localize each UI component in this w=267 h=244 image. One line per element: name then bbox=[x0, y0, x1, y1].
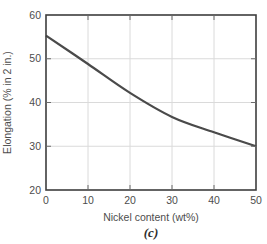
y-axis-label: Elongation (% in 2 in.) bbox=[1, 15, 14, 191]
x-tick-label-40: 40 bbox=[208, 194, 220, 206]
x-tick-label-10: 10 bbox=[82, 194, 94, 206]
plot-area: 010203040502030405060 bbox=[0, 0, 267, 244]
x-axis-label: Nickel content (wt%) bbox=[46, 211, 256, 224]
y-tick-label-40: 40 bbox=[29, 96, 41, 108]
y-tick-label-60: 60 bbox=[29, 9, 41, 21]
y-tick-label-20: 20 bbox=[29, 184, 41, 196]
x-tick-label-20: 20 bbox=[124, 194, 136, 206]
x-tick-label-30: 30 bbox=[166, 194, 178, 206]
line-chart-figure: 010203040502030405060 Elongation (% in 2… bbox=[0, 0, 267, 244]
y-tick-label-50: 50 bbox=[29, 52, 41, 64]
y-tick-label-30: 30 bbox=[29, 140, 41, 152]
elongation-vs-nickel-content-curve bbox=[46, 36, 256, 147]
x-tick-label-50: 50 bbox=[250, 194, 262, 206]
figure-caption: (c) bbox=[46, 225, 256, 241]
x-tick-label-0: 0 bbox=[43, 194, 49, 206]
